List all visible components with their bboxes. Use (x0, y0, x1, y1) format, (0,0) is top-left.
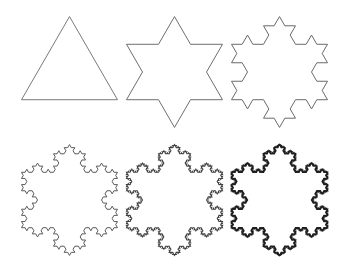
koch-iteration-0 (22, 17, 118, 100)
koch-iteration-5 (232, 145, 328, 256)
koch-iteration-1 (127, 17, 223, 128)
koch-iteration-4 (127, 145, 223, 256)
koch-iteration-3 (22, 145, 118, 256)
koch-snowflake-diagram (0, 0, 350, 272)
koch-iteration-2 (232, 17, 328, 128)
